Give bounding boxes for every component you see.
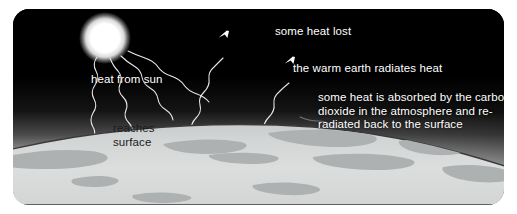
label-heat-from-sun: heat from sun bbox=[91, 73, 163, 87]
label-reaches-surface-line1: reaches bbox=[113, 122, 155, 136]
diagram-canvas: heat from sun reaches surface some heat … bbox=[0, 0, 517, 214]
label-some-heat-lost: some heat lost bbox=[275, 25, 351, 39]
label-absorbed-by-carbon-dioxide: some heat is absorbed by the carbon diox… bbox=[318, 91, 504, 132]
sun-icon bbox=[79, 12, 131, 64]
greenhouse-effect-panel: heat from sun reaches surface some heat … bbox=[13, 9, 504, 205]
label-absorbed-line1: some heat is absorbed by the carbon bbox=[318, 91, 504, 105]
label-absorbed-line3: radiated back to the surface bbox=[318, 118, 504, 132]
label-reaches-surface-line2: surface bbox=[113, 136, 155, 150]
label-warm-earth-radiates-heat: the warm earth radiates heat bbox=[293, 62, 442, 76]
label-reaches-surface: reaches surface bbox=[113, 122, 155, 149]
label-absorbed-line2: dioxide in the atmosphere and re- bbox=[318, 105, 504, 119]
